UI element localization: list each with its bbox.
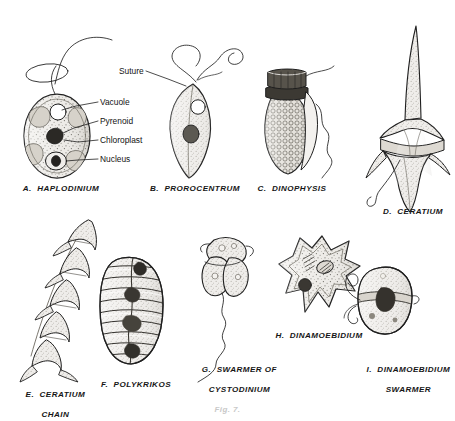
caption-h-dinamoebidium: H. DINAMOEBIDIUM: [267, 331, 371, 341]
specimen-d-ceratium: [366, 26, 450, 220]
callout-leader-suture: [146, 71, 186, 86]
caption-b-prorocentrum: B. PROROCENTRUM: [136, 184, 254, 194]
callout-label-pyrenoid: Pyrenoid: [100, 116, 133, 126]
caption-i-dinamoebidium-swarmer: I. DINAMOEBIDIUM SWARMER: [352, 355, 454, 405]
specimen-i-dinamoebidium-swarmer: [344, 262, 419, 338]
specimen-a-haplodinium: [24, 37, 112, 178]
specimen-b-prorocentrum: [146, 45, 243, 185]
caption-d-ceratium: D. CERATIUM: [366, 207, 455, 217]
specimen-f-polykrikos: [96, 252, 168, 370]
caption-f-polykrikos: F. POLYKRIKOS: [90, 380, 182, 390]
caption-a-haplodinium: A. HAPLODINIUM: [0, 184, 122, 194]
callout-label-chloroplast: Chloroplast: [100, 135, 142, 145]
callout-label-vacuole: Vacuole: [100, 97, 130, 107]
caption-i-line2: SWARMER: [386, 385, 431, 394]
caption-g-swarmer-cystodinium: G. SWARMER OF CYSTODINIUM: [182, 355, 286, 405]
specimen-e-ceratium-chain: [20, 220, 96, 382]
caption-g-line2: CYSTODINIUM: [209, 385, 270, 394]
caption-i-line1: I. DINAMOEBIDIUM: [367, 365, 451, 374]
specimen-c-dinophysis: [260, 66, 334, 179]
callout-label-nucleus: Nucleus: [100, 154, 130, 164]
specimen-h-dinamoebidium: [276, 232, 366, 318]
callout-label-suture: Suture: [119, 66, 144, 76]
caption-g-line1: G. SWARMER OF: [202, 365, 277, 374]
plate-footer-caption: Fig. 7.: [0, 405, 455, 416]
caption-c-dinophysis: C. DINOPHYSIS: [240, 184, 344, 194]
caption-e-line1: E. CERATIUM: [26, 390, 86, 399]
